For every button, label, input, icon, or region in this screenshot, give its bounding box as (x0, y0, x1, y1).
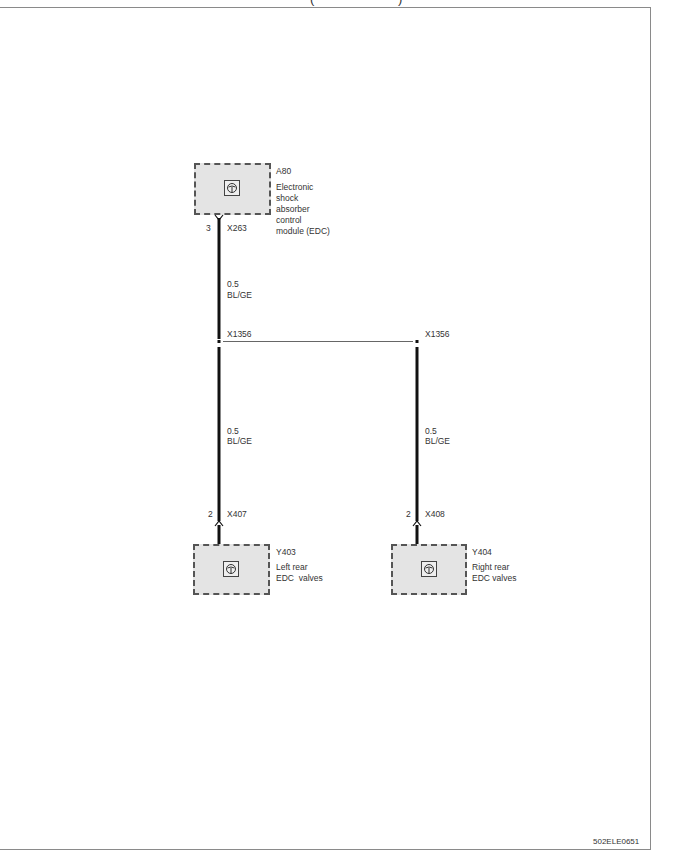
component-y404-description: Right rear EDC valves (472, 562, 516, 584)
splice-right-label: X1356 (425, 329, 450, 340)
component-y403-ref: Y403 (276, 547, 296, 558)
y403-pin-number: 2 (208, 509, 213, 520)
component-y403-box[interactable] (193, 544, 270, 595)
left-wire-color: BL/GE (227, 436, 252, 447)
drawing-id: 502ELE0651 (593, 836, 639, 847)
y404-connector-label: X408 (425, 509, 445, 520)
right-wire-color: BL/GE (425, 436, 450, 447)
component-y404-box[interactable] (391, 544, 467, 595)
component-y404-ref: Y404 (472, 547, 492, 558)
top-wire-size: 0.5 (227, 279, 239, 290)
y403-connector-label: X407 (227, 509, 247, 520)
top-wire-color: BL/GE (227, 290, 252, 301)
valve-symbol-icon (421, 561, 437, 577)
valve-symbol-icon (223, 561, 239, 577)
wiring-lines (0, 0, 685, 861)
component-y403-description: Left rear EDC valves (276, 562, 323, 584)
splice-left-label: X1356 (227, 329, 252, 340)
y404-pin-number: 2 (406, 509, 411, 520)
